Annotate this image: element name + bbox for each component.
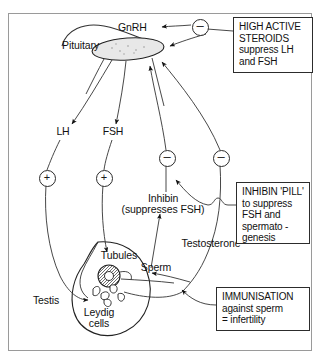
sign-steroids-negative: – (192, 19, 209, 36)
note-high-active-steroids: HIGH ACTIVE STEROIDS suppress LH and FSH (233, 17, 313, 73)
label-inhibin-note: (suppresses FSH) (121, 204, 204, 216)
label-testis: Testis (33, 295, 59, 307)
label-leydig-cells-2: cells (89, 318, 110, 330)
diagram-canvas: GnRH Pituitary LH FSH Inhibin (suppresse… (0, 0, 323, 363)
sign-lh-positive: + (39, 170, 56, 187)
label-pituitary: Pituitary (62, 40, 99, 52)
label-gnrh: GnRH (118, 22, 147, 34)
sign-fsh-positive: + (96, 170, 113, 187)
sign-testosterone-negative: – (213, 150, 230, 167)
label-lh: LH (56, 126, 69, 138)
label-testosterone: Testosterone (182, 238, 241, 250)
label-fsh: FSH (103, 126, 124, 138)
sign-inhibin-negative: – (159, 150, 176, 167)
note-immunisation: IMMUNISATION against sperm = infertility (216, 287, 310, 331)
note-inhibin-pill: INHIBIN 'PILL' to suppress FSH and sperm… (236, 182, 310, 244)
label-sperm: Sperm (141, 262, 171, 274)
label-tubules: Tubules (101, 250, 137, 262)
